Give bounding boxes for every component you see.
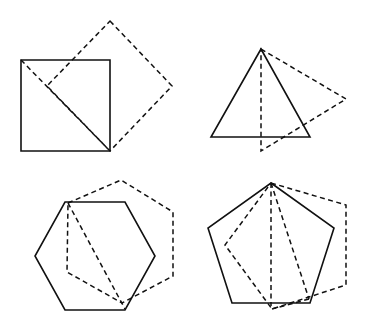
triangle-figure <box>211 49 346 151</box>
hexagon-rotated-dashed-outline <box>67 180 173 303</box>
square-figure <box>21 21 172 151</box>
hexagon-dashed-diagonal-0 <box>68 203 125 309</box>
hexagon-solid-outline <box>35 202 155 310</box>
pentagon-figure <box>208 183 346 309</box>
pentagon-dashed-diagonal-1 <box>271 183 309 299</box>
hexagon-figure <box>35 180 173 310</box>
triangle-rotated-dashed-outline <box>261 49 346 151</box>
polygon-rotation-diagram <box>0 0 369 330</box>
